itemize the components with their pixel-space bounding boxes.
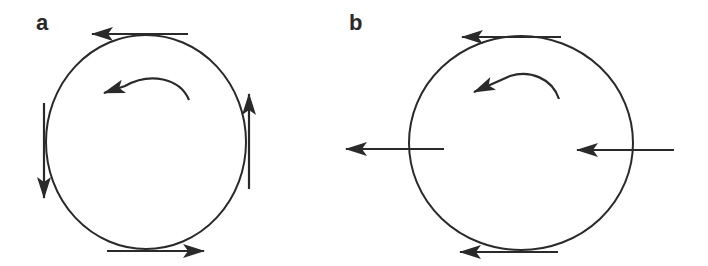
panel-b — [346, 36, 674, 252]
circle-a — [46, 35, 246, 249]
rotation-arrow-b — [474, 74, 559, 99]
circle-b — [409, 36, 633, 250]
diagram-canvas — [0, 0, 708, 266]
panel-a — [44, 34, 249, 251]
rotation-arrow-a — [104, 78, 189, 100]
